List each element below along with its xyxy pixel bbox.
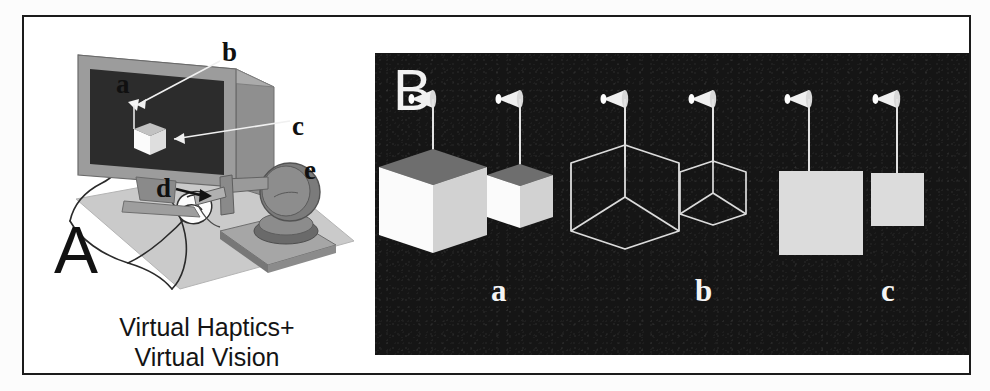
stimulus-b-large xyxy=(571,90,679,249)
callout-label-c: c xyxy=(292,113,304,140)
caption-line-1: Virtual Haptics+ xyxy=(62,313,352,343)
stimulus-b-small xyxy=(680,90,746,225)
stimulus-group-b xyxy=(571,90,746,249)
panel-a: a b c d e A Virtual Haptics+ Virtual Vis… xyxy=(24,17,364,373)
monitor-screen xyxy=(90,69,224,175)
stimulus-a-large xyxy=(379,90,487,253)
flat-square-shape xyxy=(871,173,924,226)
flat-square-shape xyxy=(779,171,863,255)
callout-label-d: d xyxy=(156,175,171,202)
stimulus-group-c xyxy=(779,90,924,255)
wireframe-spoke xyxy=(713,193,746,214)
stimulus-group-a xyxy=(379,90,553,253)
device-motor-face xyxy=(262,166,310,216)
figure-root: a b c d e A Virtual Haptics+ Virtual Vis… xyxy=(0,0,990,391)
panel-b-sublabel-c: c xyxy=(881,275,895,306)
stimulus-c-small xyxy=(871,90,924,226)
panel-b-stimuli xyxy=(375,53,969,355)
panel-a-caption: Virtual Haptics+ Virtual Vision xyxy=(62,313,352,372)
stimulus-c-large xyxy=(779,90,863,255)
panel-b-sublabel-b: b xyxy=(695,275,712,306)
panel-a-letter: A xyxy=(54,217,97,283)
wireframe-spoke xyxy=(571,197,625,231)
callout-label-e: e xyxy=(304,157,316,184)
callout-label-b: b xyxy=(222,39,237,66)
panel-b: B xyxy=(375,53,969,355)
wireframe-spoke xyxy=(680,193,713,214)
stimulus-a-small xyxy=(487,90,553,228)
callout-label-a: a xyxy=(116,71,130,98)
panel-b-sublabel-a: a xyxy=(491,275,507,306)
wireframe-spoke xyxy=(625,197,679,231)
caption-line-2: Virtual Vision xyxy=(62,343,352,373)
